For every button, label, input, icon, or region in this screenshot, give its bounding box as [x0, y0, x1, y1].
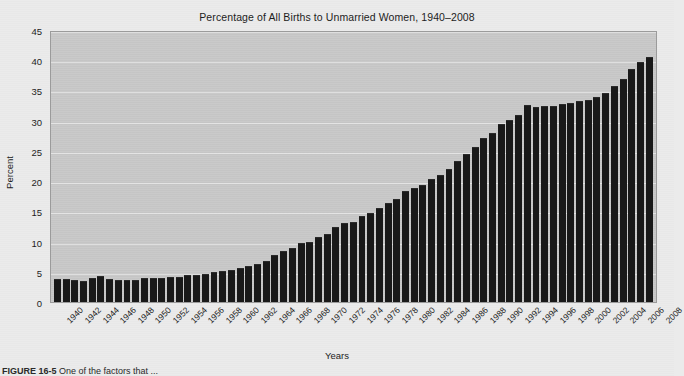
bar — [446, 169, 453, 302]
x-axis-tick-label: 1952 — [170, 305, 190, 325]
x-axis-tick-label: 2004 — [628, 305, 648, 325]
x-axis-tick-label: 1968 — [311, 305, 331, 325]
x-axis-tick-label: 1978 — [399, 305, 419, 325]
y-axis-tick-label: 35 — [0, 86, 42, 97]
bar — [324, 234, 331, 302]
y-axis-tick-label: 45 — [0, 26, 42, 37]
y-axis-tick-label: 20 — [0, 177, 42, 188]
bar — [89, 278, 96, 302]
bar — [332, 227, 339, 302]
bar — [254, 264, 261, 302]
bar — [646, 57, 653, 302]
bar — [411, 188, 418, 302]
x-axis-tick-label: 1996 — [558, 305, 578, 325]
bar — [576, 101, 583, 302]
bar — [71, 280, 78, 302]
bar — [63, 279, 70, 302]
x-axis-tick-label: 1962 — [258, 305, 278, 325]
x-axis-tick-label: 1990 — [505, 305, 525, 325]
figure-caption-text: One of the factors that ... — [59, 366, 158, 376]
x-axis-tick-label: 1958 — [223, 305, 243, 325]
bar — [567, 103, 574, 302]
x-axis-tick-label: 1964 — [276, 305, 296, 325]
bar — [228, 270, 235, 302]
bar — [54, 279, 61, 302]
y-axis-tick-label: 0 — [0, 298, 42, 309]
bar — [141, 278, 148, 302]
bar — [419, 185, 426, 302]
bar — [559, 104, 566, 302]
y-axis-tick-label: 10 — [0, 237, 42, 248]
x-axis-tick-label: 1956 — [206, 305, 226, 325]
x-axis-tick-label: 2000 — [593, 305, 613, 325]
bar — [602, 93, 609, 302]
x-axis-tick-label: 1980 — [417, 305, 437, 325]
bar — [524, 105, 531, 302]
x-axis-tick-label: 1986 — [470, 305, 490, 325]
x-axis-tick-label: 1950 — [153, 305, 173, 325]
bar — [315, 237, 322, 302]
bar — [245, 266, 252, 302]
figure-caption-label: FIGURE 16-5 — [2, 366, 57, 376]
y-axis-title: Percent — [4, 156, 15, 189]
bar — [211, 272, 218, 302]
x-axis-title: Years — [0, 350, 674, 361]
bar — [80, 281, 87, 302]
bar — [298, 243, 305, 302]
bar — [385, 203, 392, 302]
y-axis-tick-label: 5 — [0, 267, 42, 278]
bar — [132, 280, 139, 302]
x-axis-tick-layer: 1940194219441946194819501952195419561958… — [50, 305, 657, 349]
x-axis-tick-label: 2002 — [610, 305, 630, 325]
bar — [480, 138, 487, 302]
y-axis-tick-label: 30 — [0, 116, 42, 127]
bar — [550, 106, 557, 302]
x-axis-tick-label: 1940 — [65, 305, 85, 325]
x-axis-tick-label: 1946 — [118, 305, 138, 325]
bar — [541, 106, 548, 302]
chart-title: Percentage of All Births to Unmarried Wo… — [0, 11, 674, 23]
figure-caption: FIGURE 16-5 One of the factors that ... — [2, 366, 672, 376]
bar — [306, 242, 313, 302]
bar — [402, 191, 409, 302]
bar — [376, 208, 383, 302]
bar — [585, 100, 592, 302]
bar — [367, 213, 374, 302]
bar — [637, 62, 644, 302]
x-axis-tick-label: 1966 — [294, 305, 314, 325]
bar — [158, 278, 165, 302]
bar — [271, 255, 278, 302]
bar — [97, 276, 104, 302]
bar — [289, 248, 296, 302]
bar — [350, 222, 357, 302]
x-axis-tick-label: 1942 — [83, 305, 103, 325]
x-axis-tick-label: 2008 — [663, 305, 683, 325]
y-axis-tick-label: 15 — [0, 207, 42, 218]
bar — [628, 69, 635, 302]
bar-series — [51, 32, 656, 302]
bar — [489, 133, 496, 302]
bar — [533, 107, 540, 302]
bar — [106, 279, 113, 302]
bar — [428, 179, 435, 302]
bar — [506, 120, 513, 302]
y-axis-tick-label: 25 — [0, 146, 42, 157]
x-axis-tick-label: 1994 — [540, 305, 560, 325]
x-axis-tick-label: 1948 — [135, 305, 155, 325]
x-axis-tick-label: 1982 — [434, 305, 454, 325]
bar — [237, 268, 244, 302]
x-axis-tick-label: 1960 — [241, 305, 261, 325]
x-axis-tick-label: 1970 — [329, 305, 349, 325]
bar — [620, 79, 627, 302]
bar — [193, 275, 200, 302]
x-axis-tick-label: 1954 — [188, 305, 208, 325]
bar — [515, 115, 522, 302]
x-axis-tick-label: 1992 — [522, 305, 542, 325]
x-axis-tick-label: 1976 — [382, 305, 402, 325]
y-axis-tick-label: 40 — [0, 56, 42, 67]
bar — [202, 274, 209, 302]
bar — [498, 124, 505, 302]
bar — [611, 86, 618, 302]
x-axis-tick-label: 1944 — [100, 305, 120, 325]
